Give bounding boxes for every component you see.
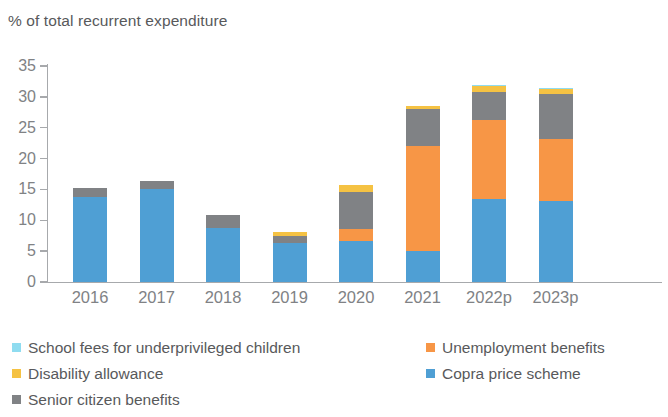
chart-legend: School fees for underprivileged children…: [8, 336, 668, 416]
bar-segment[interactable]: [539, 139, 573, 201]
legend-item[interactable]: Senior citizen benefits: [12, 392, 180, 408]
bar-segment[interactable]: [206, 215, 240, 228]
legend-item[interactable]: School fees for underprivileged children: [12, 340, 300, 356]
legend-item[interactable]: Disability allowance: [12, 366, 163, 382]
legend-label: Senior citizen benefits: [28, 392, 180, 408]
x-tick-label: 2020: [321, 289, 391, 306]
legend-swatch-icon: [12, 343, 21, 352]
x-tick-label: 2021: [388, 289, 458, 306]
bar-segment[interactable]: [539, 94, 573, 140]
bar-segment[interactable]: [140, 181, 174, 189]
bar-segment[interactable]: [273, 236, 307, 243]
bar-stack[interactable]: [206, 215, 240, 282]
bar-segment[interactable]: [73, 188, 107, 197]
bar-segment[interactable]: [406, 251, 440, 282]
bar-stack[interactable]: [539, 88, 573, 282]
x-tick-label: 2016: [55, 289, 125, 306]
plot-area: 05101520253035 2016201720182019202020212…: [0, 0, 668, 300]
x-tick-label: 2023p: [521, 289, 591, 306]
bar-segment[interactable]: [472, 199, 506, 282]
x-tick-label: 2022p: [454, 289, 524, 306]
bar-stack[interactable]: [73, 188, 107, 282]
x-tick-label: 2019: [255, 289, 325, 306]
x-tick-label: 2018: [188, 289, 258, 306]
legend-item[interactable]: Unemployment benefits: [426, 340, 605, 356]
bar-segment[interactable]: [140, 189, 174, 282]
legend-swatch-icon: [426, 369, 435, 378]
bar-segment[interactable]: [73, 197, 107, 282]
legend-label: Unemployment benefits: [442, 340, 605, 356]
legend-label: Copra price scheme: [442, 366, 581, 382]
bar-stack[interactable]: [406, 106, 440, 282]
legend-item[interactable]: Copra price scheme: [426, 366, 581, 382]
bar-segment[interactable]: [472, 92, 506, 120]
bar-segment[interactable]: [539, 201, 573, 282]
bar-segment[interactable]: [339, 185, 373, 192]
bar-segment[interactable]: [406, 146, 440, 252]
x-tick-label: 2017: [122, 289, 192, 306]
legend-swatch-icon: [12, 395, 21, 404]
bar-segment[interactable]: [406, 109, 440, 146]
bar-segment[interactable]: [273, 243, 307, 282]
legend-label: Disability allowance: [28, 366, 163, 382]
bar-series-container: [0, 0, 668, 300]
bar-segment[interactable]: [339, 192, 373, 229]
bar-segment[interactable]: [339, 241, 373, 282]
bar-stack[interactable]: [140, 181, 174, 282]
bar-segment[interactable]: [472, 120, 506, 199]
bar-segment[interactable]: [339, 229, 373, 241]
bar-stack[interactable]: [472, 85, 506, 282]
chart-figure: % of total recurrent expenditure 0510152…: [0, 0, 668, 417]
legend-swatch-icon: [12, 369, 21, 378]
legend-swatch-icon: [426, 343, 435, 352]
legend-label: School fees for underprivileged children: [28, 340, 300, 356]
bar-stack[interactable]: [339, 185, 373, 282]
bar-segment[interactable]: [206, 228, 240, 282]
bar-stack[interactable]: [273, 232, 307, 282]
